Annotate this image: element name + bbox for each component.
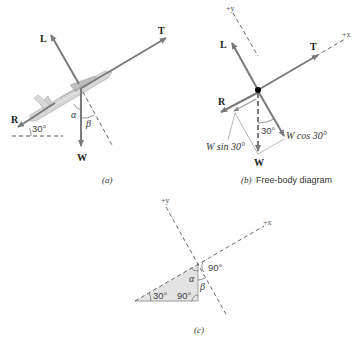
plus-y-label: +y xyxy=(161,196,170,205)
caption-c: (c) xyxy=(194,325,204,335)
w-sin-arrow xyxy=(234,99,256,111)
angle-arc-beta xyxy=(198,278,205,280)
thrust-arrow xyxy=(258,55,318,90)
plus-x-label: +x xyxy=(342,30,351,39)
alpha-label: α xyxy=(71,109,77,120)
w-sin-label: W sin 30° xyxy=(206,141,245,152)
thrust-label: T xyxy=(158,25,165,36)
caption-a: (a) xyxy=(102,175,113,185)
lift-label: L xyxy=(40,33,47,44)
thrust-arrow xyxy=(80,38,166,89)
angle-90-top-label: 90° xyxy=(208,262,223,273)
beta-label: β xyxy=(199,281,205,292)
lift-label: L xyxy=(220,39,227,50)
drag-label: R xyxy=(11,114,19,125)
x-axis-dashed xyxy=(316,39,345,56)
beta-label: β xyxy=(85,118,91,129)
lift-arrow xyxy=(51,35,79,84)
angle-30-label: 30° xyxy=(261,125,276,136)
plus-x-label: +x xyxy=(263,218,272,227)
caption-b-text: Free-body diagram xyxy=(256,175,332,185)
caption-b-letter: (b) xyxy=(241,175,252,185)
plus-y-label: +y xyxy=(226,4,235,13)
figure-canvas: L T R W 30° α β (a) +y +x L T xyxy=(0,0,358,345)
panel-c: +y +x 90° α β 30° 90° (c) xyxy=(135,196,272,335)
weight-label: W xyxy=(254,157,264,168)
w-cos-label: W cos 30° xyxy=(286,130,327,141)
angle-30-label: 30° xyxy=(153,290,168,301)
weight-label: W xyxy=(77,152,87,163)
angle-90-bottom-label: 90° xyxy=(177,290,192,301)
drag-arrow xyxy=(221,93,257,112)
angle-arc-30 xyxy=(30,128,32,136)
angle-30-label: 30° xyxy=(32,123,47,134)
thrust-label: T xyxy=(310,41,317,52)
panel-b: +y +x L T R W 30° W cos 30° W sin 30° (b… xyxy=(206,4,351,185)
w-sin-leader xyxy=(228,113,235,140)
drag-label: R xyxy=(218,96,226,107)
component-guide-2 xyxy=(258,139,284,154)
alpha-label: α xyxy=(189,273,195,284)
angle-arc-30 xyxy=(258,119,274,123)
center-of-mass-dot xyxy=(255,87,261,93)
panel-a: L T R W 30° α β (a) xyxy=(11,25,166,185)
